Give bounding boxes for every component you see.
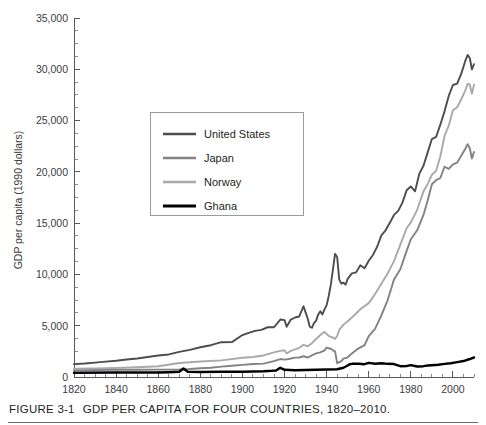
x-tick-label-1980: 1980 <box>399 383 423 395</box>
y-tick-label-20000: 20,000 <box>36 166 68 178</box>
y-tick-label-25000: 25,000 <box>36 114 68 126</box>
legend-label-norway: Norway <box>204 176 242 188</box>
caption-figure-number: FIGURE 3-1 <box>9 403 75 415</box>
y-tick-label-35000: 35,000 <box>36 12 68 24</box>
x-axis-tick-labels: 1820184018601880190019201940196019802000 <box>62 383 464 395</box>
legend-label-ghana: Ghana <box>204 200 238 212</box>
caption-text-row: FIGURE 3-1GDP PER CAPITA FOR FOUR COUNTR… <box>9 403 390 415</box>
x-tick-label-1920: 1920 <box>273 383 297 395</box>
x-tick-label-1820: 1820 <box>62 383 86 395</box>
legend-label-united-states: United States <box>204 128 271 140</box>
figure-container: 05,00010,00015,00020,00025,00030,00035,0… <box>0 0 486 425</box>
caption-rule <box>8 422 478 423</box>
y-axis-tick-labels: 05,00010,00015,00020,00025,00030,00035,0… <box>36 12 68 383</box>
x-tick-label-1860: 1860 <box>147 383 171 395</box>
y-tick-label-15000: 15,000 <box>36 217 68 229</box>
y-tick-label-10000: 10,000 <box>36 268 68 280</box>
x-tick-label-1840: 1840 <box>104 383 128 395</box>
x-tick-label-1880: 1880 <box>189 383 213 395</box>
legend-label-japan: Japan <box>204 152 234 164</box>
y-tick-label-0: 0 <box>62 371 68 383</box>
gdp-per-capita-line-chart: 05,00010,00015,00020,00025,00030,00035,0… <box>0 0 486 400</box>
caption-figure-title: GDP PER CAPITA FOR FOUR COUNTRIES, 1820–… <box>83 403 390 415</box>
chart-legend: United StatesJapanNorwayGhana <box>150 112 303 215</box>
y-tick-label-5000: 5,000 <box>42 320 68 332</box>
y-axis-title: GDP per capita (1990 dollars) <box>12 131 24 270</box>
x-tick-label-1960: 1960 <box>357 383 381 395</box>
x-tick-label-2000: 2000 <box>441 383 465 395</box>
figure-caption: FIGURE 3-1GDP PER CAPITA FOR FOUR COUNTR… <box>0 400 486 425</box>
y-tick-label-30000: 30,000 <box>36 63 68 75</box>
x-tick-label-1940: 1940 <box>315 383 339 395</box>
x-tick-label-1900: 1900 <box>231 383 255 395</box>
